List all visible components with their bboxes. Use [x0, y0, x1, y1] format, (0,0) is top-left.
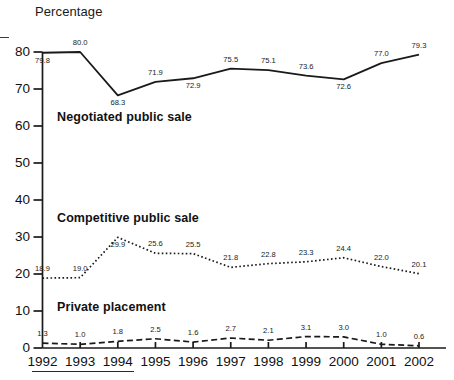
y-tick-label: 40: [0, 193, 30, 207]
series-legend-label: Private placement: [57, 300, 166, 314]
data-point-label: 3.0: [331, 324, 357, 332]
data-point-label: 24.4: [331, 245, 357, 253]
data-point-label: 2.1: [255, 327, 281, 335]
data-point-label: 75.5: [218, 56, 244, 64]
data-point-label: 79.3: [406, 42, 432, 50]
x-tick-label: 1999: [286, 355, 326, 369]
data-point-label: 77.0: [368, 50, 394, 58]
y-tick-label: 50: [0, 156, 30, 170]
data-point-label: 2.7: [218, 325, 244, 333]
data-point-label: 2.5: [142, 326, 168, 334]
y-tick-label: 30: [0, 230, 30, 244]
data-point-label: 22.8: [255, 251, 281, 259]
data-point-label: 25.6: [142, 240, 168, 248]
footer-divider: [32, 371, 134, 372]
data-point-label: 0.6: [406, 333, 432, 341]
data-point-label: 72.9: [180, 82, 206, 90]
data-point-label: 1.3: [30, 330, 56, 338]
data-point-label: 21.8: [218, 254, 244, 262]
y-tick-label: 60: [0, 119, 30, 133]
data-point-label: 72.6: [331, 83, 357, 91]
data-point-label: 20.1: [406, 261, 432, 269]
data-point-label: 19.0: [67, 265, 93, 273]
data-point-label: 18.9: [30, 265, 56, 273]
data-point-label: 29.9: [105, 241, 131, 249]
y-tick-label: 20: [0, 267, 30, 281]
data-point-label: 75.1: [255, 57, 281, 65]
data-point-label: 79.8: [30, 57, 56, 65]
data-point-label: 80.0: [67, 39, 93, 47]
data-point-label: 23.3: [293, 249, 319, 257]
data-point-label: 73.6: [293, 63, 319, 71]
data-point-label: 68.3: [105, 99, 131, 107]
data-point-label: 1.8: [105, 328, 131, 336]
x-tick-label: 1997: [211, 355, 251, 369]
x-tick-label: 2002: [399, 355, 439, 369]
y-tick-label: 80: [0, 45, 30, 59]
x-tick-label: 1994: [98, 355, 138, 369]
data-point-label: 1.0: [67, 331, 93, 339]
x-tick-label: 2001: [361, 355, 401, 369]
data-point-label: 22.0: [368, 254, 394, 262]
x-tick-label: 1998: [248, 355, 288, 369]
y-tick-label: 70: [0, 82, 30, 96]
data-point-label: 1.0: [368, 331, 394, 339]
data-point-label: 3.1: [293, 324, 319, 332]
chart-container: Percentage 01020304050607080199219931994…: [0, 0, 454, 380]
x-tick-label: 1992: [23, 355, 63, 369]
x-tick-label: 2000: [324, 355, 364, 369]
x-tick-label: 1996: [173, 355, 213, 369]
series-legend-label: Competitive public sale: [57, 211, 199, 225]
data-point-label: 71.9: [142, 69, 168, 77]
series-legend-label: Negotiated public sale: [57, 110, 192, 124]
data-point-label: 25.5: [180, 241, 206, 249]
y-tick-label: 0: [0, 341, 30, 355]
y-tick-label: 10: [0, 304, 30, 318]
x-tick-label: 1995: [135, 355, 175, 369]
x-tick-label: 1993: [60, 355, 100, 369]
data-point-label: 1.6: [180, 329, 206, 337]
